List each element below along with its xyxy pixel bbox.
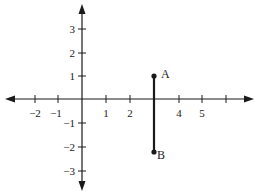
- x-tick-label: 1: [103, 107, 109, 119]
- x-tick-label: −1: [50, 107, 62, 119]
- coordinate-plane: −2 −1 1 2 4 5 3 2 1 −1 −2 −3 A B: [0, 0, 258, 194]
- x-tick-label: 2: [127, 107, 133, 119]
- x-tick-label: 4: [176, 107, 182, 119]
- x-tick-label: 5: [199, 107, 205, 119]
- y-tick-label: 1: [70, 70, 76, 82]
- y-tick-label: 2: [70, 47, 76, 59]
- y-tick-label: −1: [63, 117, 75, 129]
- y-axis-down-arrow-icon: [79, 181, 86, 191]
- point-a-label: A: [161, 67, 170, 81]
- y-axis-up-arrow-icon: [79, 4, 86, 14]
- x-axis-right-arrow-icon: [244, 96, 254, 103]
- point-b-label: B: [157, 148, 165, 162]
- y-tick-label: −3: [63, 165, 75, 177]
- point-b: [151, 149, 156, 154]
- x-tick-label: −2: [29, 107, 41, 119]
- point-a: [151, 73, 156, 78]
- y-tick-label: −2: [63, 141, 75, 153]
- y-tick-label: 3: [70, 23, 76, 35]
- x-axis-left-arrow-icon: [5, 96, 15, 103]
